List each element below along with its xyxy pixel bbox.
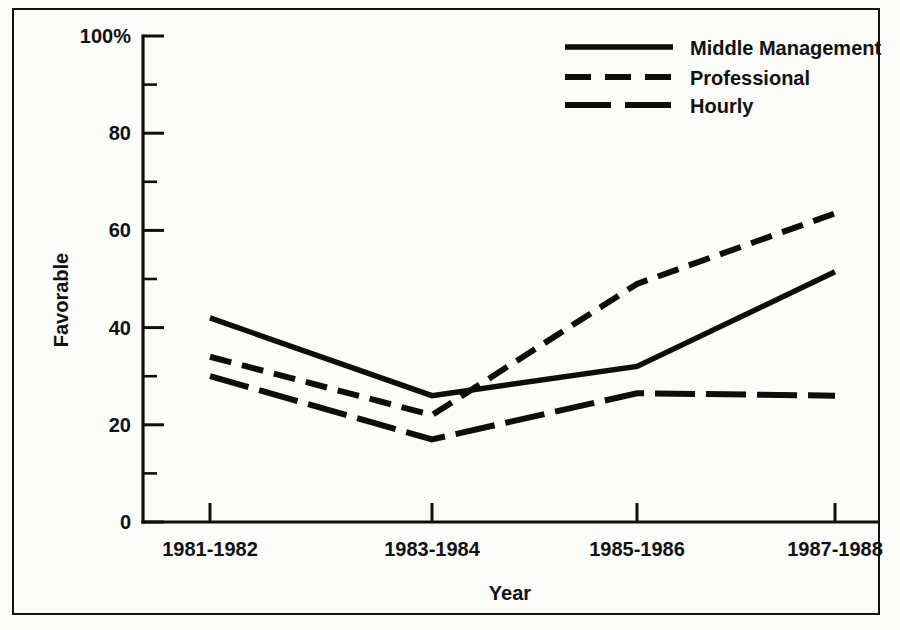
legend-label: Professional (690, 67, 810, 89)
x-tick-label: 1981-1982 (162, 538, 258, 560)
legend-label: Hourly (690, 95, 754, 117)
data-series-group: Middle ManagementProfessionalHourly (210, 213, 835, 439)
favorable-by-year-line-chart: 020406080100% 1981-19821983-19841985-198… (0, 0, 900, 630)
y-axis-tick-labels: 020406080100% (80, 25, 131, 533)
y-tick-label: 80 (109, 122, 131, 144)
y-tick-label: 40 (109, 317, 131, 339)
y-tick-label: 60 (109, 219, 131, 241)
y-axis-title: Favorable (50, 253, 72, 347)
legend-label: Middle Management (690, 37, 881, 59)
chart-legend: Middle ManagementProfessionalHourly (565, 37, 881, 117)
x-axis-title: Year (489, 582, 531, 604)
x-axis-tick-labels: 1981-19821983-19841985-19861987-1988 (162, 538, 883, 560)
y-axis-minor-ticks (143, 85, 157, 474)
series-line-hourly: Hourly (210, 376, 835, 439)
axes (143, 36, 878, 522)
series-line-middle-management: Middle Management (210, 272, 835, 396)
y-tick-label: 100% (80, 25, 131, 47)
chart-page: 020406080100% 1981-19821983-19841985-198… (0, 0, 900, 630)
x-tick-label: 1983-1984 (384, 538, 481, 560)
x-tick-label: 1985-1986 (589, 538, 685, 560)
y-tick-label: 0 (120, 511, 131, 533)
y-tick-label: 20 (109, 414, 131, 436)
x-tick-label: 1987-1988 (787, 538, 883, 560)
x-axis-ticks (210, 503, 835, 522)
